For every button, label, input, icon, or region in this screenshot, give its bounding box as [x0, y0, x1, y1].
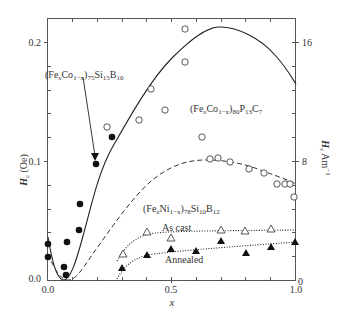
tick-x-0.0: 0.0 [42, 284, 55, 295]
tick-x-0.5: 0.5 [165, 284, 178, 295]
series-fecosib-filled-circles [45, 134, 116, 279]
tick-right-0: 0 [298, 276, 303, 287]
coercivity-chart: 0.2 0.1 0.0 0.0 0.5 1.0 16 8 0 x Hc (Oe)… [0, 0, 341, 315]
annotation-fecopc: (FexCo1−x)80P13C7 [190, 103, 263, 116]
tick-y-0.1: 0.1 [29, 156, 42, 167]
solid-fit-curve [48, 27, 296, 280]
y-axis-right-label: Hc Am−1 [318, 139, 332, 176]
tick-y-0.0: 0.0 [29, 273, 42, 284]
annotation-fecosib: (FexCo1−x)75Si15B10 [45, 69, 124, 82]
tick-right-16: 16 [302, 37, 312, 48]
x-axis-label: x [169, 296, 175, 308]
annotation-arrow [83, 77, 95, 156]
label-as-cast: As cast [162, 222, 191, 233]
tick-y-0.2: 0.2 [29, 37, 42, 48]
tick-right-8: 8 [302, 156, 307, 167]
arrow-head-icon [91, 153, 99, 161]
series-annealed-filled-triangles [118, 237, 299, 271]
annotation-fenisib: (FexNi1−x)78Si10B12 [143, 203, 220, 216]
label-annealed: Annealed [165, 254, 203, 265]
